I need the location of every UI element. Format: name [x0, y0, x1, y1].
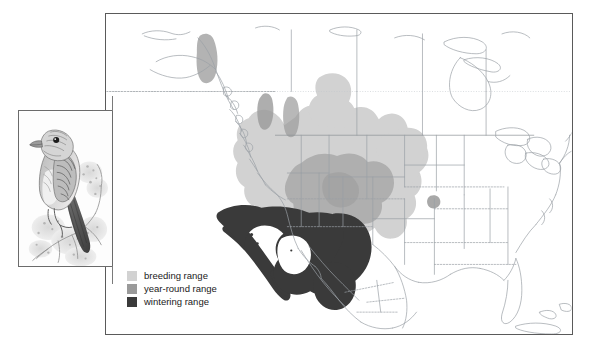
- panel-leader-bottom: [112, 266, 113, 284]
- sparrow-illustration-icon: [19, 111, 112, 266]
- panel-leader-top: [112, 96, 113, 111]
- bird-eye: [53, 137, 59, 143]
- legend-item-breeding: breeding range: [127, 270, 217, 282]
- legend-label-breeding: breeding range: [144, 271, 208, 281]
- legend-swatch-year-round: [127, 284, 137, 294]
- bird-eye-highlight: [54, 138, 56, 140]
- legend-item-wintering: wintering range: [127, 296, 217, 308]
- legend-label-wintering: wintering range: [144, 297, 209, 307]
- legend-item-year-round: year-round range: [127, 283, 217, 295]
- bird-illustration-panel: [18, 110, 113, 267]
- map-legend: breeding range year-round range winterin…: [127, 270, 217, 309]
- wintering-range-region: [216, 205, 371, 310]
- legend-swatch-wintering: [127, 297, 137, 307]
- legend-swatch-breeding: [127, 271, 137, 281]
- legend-label-year-round: year-round range: [144, 284, 217, 294]
